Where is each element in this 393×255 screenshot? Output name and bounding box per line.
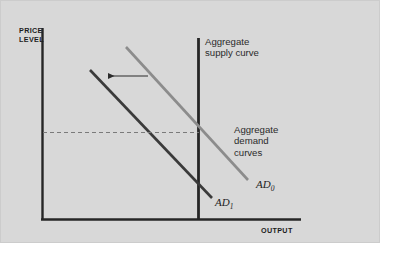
x-axis-label: OUTPUT <box>261 226 293 235</box>
ad0-label: AD0 <box>256 178 274 193</box>
ad0-curve-line <box>126 47 248 180</box>
y-axis-label: PRICE LEVEL <box>19 26 44 44</box>
ad1-curve-line <box>90 70 212 198</box>
ad1-label: AD1 <box>215 196 233 211</box>
ad0-label-text: AD <box>256 178 271 190</box>
ad0-label-subscript: 0 <box>271 184 275 193</box>
aggregate-demand-curves-label: Aggregate demand curves <box>234 124 278 158</box>
ad1-label-subscript: 1 <box>230 202 234 211</box>
aggregate-demand-supply-chart <box>0 0 393 255</box>
ad1-label-text: AD <box>215 196 230 208</box>
aggregate-supply-curve-label: Aggregate supply curve <box>205 36 259 59</box>
figure-root: PRICE LEVEL OUTPUT Aggregate supply curv… <box>0 0 393 255</box>
